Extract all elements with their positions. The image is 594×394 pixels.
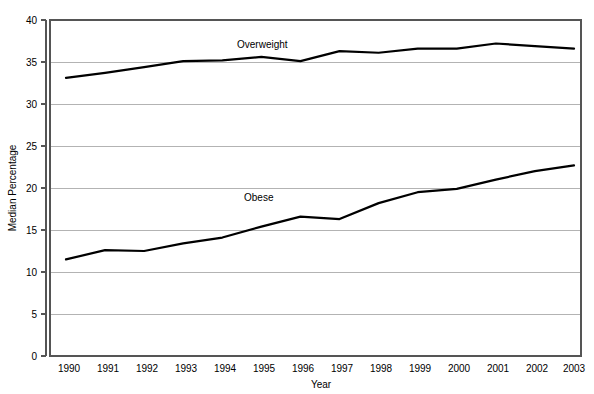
x-tick-label-1991: 1991	[97, 363, 120, 374]
x-tick-label-1996: 1996	[292, 363, 315, 374]
chart-background	[0, 0, 594, 394]
x-tick-label-2001: 2001	[487, 363, 510, 374]
x-tick-label-1994: 1994	[214, 363, 237, 374]
series-label-overweight: Overweight	[237, 39, 288, 50]
x-tick-label-1998: 1998	[370, 363, 393, 374]
x-tick-label-2000: 2000	[448, 363, 471, 374]
x-tick-label-1995: 1995	[253, 363, 276, 374]
y-tick-label-40: 40	[26, 15, 38, 26]
x-tick-label-1999: 1999	[409, 363, 432, 374]
x-tick-label-1992: 1992	[136, 363, 159, 374]
y-tick-label-0: 0	[31, 351, 37, 362]
x-tick-label-1990: 1990	[58, 363, 81, 374]
y-axis-title: Median Percentage	[7, 144, 18, 231]
chart-canvas: 40 35 30 25 20 15 10 5 0 1990 1991 1992 …	[0, 0, 594, 394]
y-tick-label-25: 25	[26, 141, 38, 152]
x-tick-label-1997: 1997	[331, 363, 354, 374]
y-tick-label-20: 20	[26, 183, 38, 194]
y-tick-label-30: 30	[26, 99, 38, 110]
x-tick-label-2003: 2003	[563, 363, 586, 374]
y-tick-label-35: 35	[26, 57, 38, 68]
y-tick-label-10: 10	[26, 267, 38, 278]
series-label-obese: Obese	[244, 192, 274, 203]
x-tick-label-2002: 2002	[526, 363, 549, 374]
x-tick-label-1993: 1993	[175, 363, 198, 374]
y-tick-label-15: 15	[26, 225, 38, 236]
x-axis-title: Year	[311, 379, 332, 390]
line-chart: 40 35 30 25 20 15 10 5 0 1990 1991 1992 …	[0, 0, 594, 394]
y-tick-label-5: 5	[31, 309, 37, 320]
